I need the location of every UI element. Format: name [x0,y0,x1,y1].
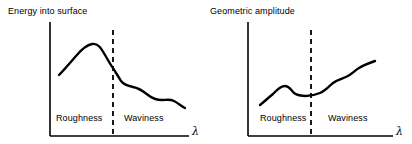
x-axis-lambda-symbol: λ [192,126,199,137]
plot-area-amplitude [206,0,412,144]
region-label-roughness: Roughness [260,113,306,124]
energy-curve [59,44,185,108]
region-label-roughness: Roughness [56,113,102,124]
surface-texture-figure: Energy into surface Roughness Waviness λ… [0,0,412,144]
chart-panel-energy: Energy into surface Roughness Waviness λ [0,0,206,144]
region-label-waviness: Waviness [124,113,163,124]
region-label-waviness: Waviness [328,113,367,124]
x-axis-lambda-symbol: λ [396,126,403,137]
plot-area-energy [0,0,206,144]
chart-panel-amplitude: Geometric amplitude Roughness Waviness λ [206,0,412,144]
amplitude-curve [260,61,375,105]
